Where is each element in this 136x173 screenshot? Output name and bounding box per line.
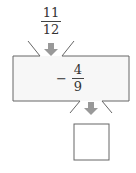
operation-fraction: 4 9 — [72, 63, 84, 94]
operation-denominator: 9 — [72, 80, 84, 94]
arrow-down-icon — [44, 43, 58, 56]
input-denominator: 12 — [41, 23, 61, 37]
input-fraction: 11 12 — [41, 6, 61, 37]
arrow-down-icon — [84, 102, 98, 115]
function-machine-diagram — [0, 0, 136, 173]
operation-numerator: 4 — [72, 63, 84, 77]
answer-input[interactable] — [75, 125, 108, 159]
operation-sign: − — [56, 71, 67, 86]
input-numerator: 11 — [41, 6, 61, 20]
